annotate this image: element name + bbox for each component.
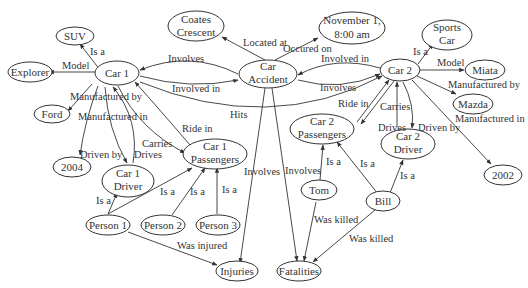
label-car1-drivenby: Driven by <box>80 149 123 160</box>
label-car1-drives: Drives <box>134 149 162 160</box>
svg-text:Accident: Accident <box>248 73 288 85</box>
svg-text:Crescent: Crescent <box>177 26 215 38</box>
node-2004: 2004 <box>53 157 91 177</box>
label-car1-carries: Carries <box>142 138 172 149</box>
node-car1-driver: Car 1 Driver <box>102 165 154 197</box>
semantic-network-diagram: SUV Explorer Car 1 Ford 2004 Car 1 Drive… <box>0 0 528 288</box>
label-car2-drivenby: Driven by <box>418 122 461 133</box>
svg-text:Passengers: Passengers <box>298 128 346 140</box>
edge-car2-involvedin-acc <box>298 63 380 75</box>
label-car2-manufin: Manufactured in <box>455 113 525 124</box>
svg-text:Car 1: Car 1 <box>116 167 140 179</box>
node-explorer: Explorer <box>8 62 52 82</box>
node-person3: Person 3 <box>196 215 240 235</box>
svg-text:Bill: Bill <box>375 195 392 207</box>
node-injuries: Injuries <box>216 261 258 281</box>
node-car1-passengers: Car 1 Passengers <box>183 139 247 169</box>
node-car2-passengers: Car 2 Passengers <box>290 114 354 144</box>
node-ford: Ford <box>34 105 70 123</box>
label-car2-involvedin: Involved in <box>321 53 370 64</box>
svg-text:Person 1: Person 1 <box>89 219 127 231</box>
label-car1-isa: Is a <box>90 46 105 57</box>
node-2002: 2002 <box>484 165 522 185</box>
label-car1-manufin: Manufactured in <box>78 111 148 122</box>
label-car2-ridein: Ride in <box>338 98 369 109</box>
node-fatalities: Fatalities <box>277 261 321 281</box>
label-tom-isa: Is a <box>326 156 341 167</box>
svg-text:Car 1: Car 1 <box>105 67 129 79</box>
label-acc-involves-car2: Involves <box>320 82 356 93</box>
svg-text:Passengers: Passengers <box>191 153 239 165</box>
svg-text:Miata: Miata <box>472 64 498 76</box>
svg-text:Mazda: Mazda <box>458 98 488 110</box>
svg-text:Explorer: Explorer <box>11 66 50 78</box>
label-bill-isa-driver: Is a <box>400 170 415 181</box>
svg-text:November 1,: November 1, <box>323 14 381 26</box>
label-car1-ridein: Ride in <box>182 123 213 134</box>
svg-text:Car 2: Car 2 <box>310 115 334 127</box>
label-p3-isa: Is a <box>222 184 237 195</box>
label-was-injured: Was injured <box>177 240 228 251</box>
svg-text:Coates: Coates <box>181 13 211 25</box>
svg-text:Car 1: Car 1 <box>203 140 227 152</box>
label-car2-manufby: Manufactured by <box>448 79 521 90</box>
svg-text:Tom: Tom <box>309 184 329 196</box>
svg-text:Driver: Driver <box>394 143 423 155</box>
node-coates-crescent: Coates Crescent <box>168 11 224 41</box>
svg-text:Car: Car <box>439 34 455 46</box>
node-car2-driver: Car 2 Driver <box>381 129 435 159</box>
label-car1-model: Model <box>62 60 89 71</box>
label-car2-model: Model <box>437 57 464 68</box>
label-located-at: Located at <box>243 37 287 48</box>
node-miata: Miata <box>465 60 505 80</box>
label-acc-involves-car1: Involves <box>168 53 204 64</box>
svg-text:Car: Car <box>260 60 276 72</box>
label-car1-manufby: Manufactured by <box>70 91 143 102</box>
svg-text:Person 2: Person 2 <box>144 219 182 231</box>
svg-text:Driver: Driver <box>114 180 143 192</box>
node-sports-car: Sports Car <box>422 20 472 50</box>
label-p1-isa-pass: Is a <box>160 186 175 197</box>
node-person1: Person 1 <box>86 215 130 235</box>
node-mazda: Mazda <box>453 94 493 114</box>
label-hits: Hits <box>230 109 248 120</box>
svg-text:8:00 am: 8:00 am <box>334 28 370 40</box>
label-p1-isa-driver: Is a <box>96 195 111 206</box>
label-acc-involves-injuries: Involves <box>244 166 280 177</box>
node-suv: SUV <box>56 27 94 45</box>
svg-text:SUV: SUV <box>64 30 86 42</box>
svg-text:2004: 2004 <box>61 161 84 173</box>
svg-text:Sports: Sports <box>433 21 461 33</box>
svg-text:Ford: Ford <box>42 108 63 120</box>
label-p2-isa: Is a <box>190 186 205 197</box>
node-bill: Bill <box>366 191 400 211</box>
svg-text:Fatalities: Fatalities <box>279 265 319 277</box>
svg-text:Car 2: Car 2 <box>388 64 412 76</box>
label-tom-killed: Was killed <box>314 214 359 225</box>
node-tom: Tom <box>301 180 337 200</box>
label-bill-killed: Was killed <box>349 233 394 244</box>
node-car-accident: Car Accident <box>239 60 297 88</box>
node-person2: Person 2 <box>141 215 185 235</box>
node-car2: Car 2 <box>380 59 420 81</box>
label-car2-isa: Is a <box>413 46 428 57</box>
node-november-1: November 1, 8:00 am <box>319 12 385 44</box>
node-car1: Car 1 <box>95 61 139 85</box>
label-car1-involvedin: Involved in <box>172 83 221 94</box>
svg-text:Person 3: Person 3 <box>199 219 238 231</box>
label-car2-carries: Carries <box>380 101 410 112</box>
svg-text:Injuries: Injuries <box>220 265 254 277</box>
svg-text:2002: 2002 <box>492 169 514 181</box>
label-car2-drives: Drives <box>378 122 406 133</box>
edge-tom-killed <box>304 202 316 261</box>
label-acc-involves-fatalities: Involves <box>285 165 321 176</box>
label-bill-isa-pass: Is a <box>360 158 375 169</box>
